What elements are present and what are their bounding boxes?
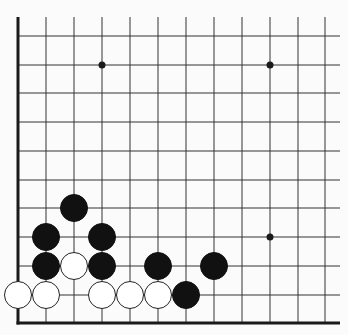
white-stone-icon [61,253,88,280]
black-stone-icon [145,253,172,280]
black-stone-icon [61,195,88,222]
white-stone-icon [33,282,60,309]
black-stone-icon [201,253,228,280]
black-stone-icon [89,253,116,280]
white-stone-icon [89,282,116,309]
black-stone-icon [89,224,116,251]
white-stone-icon [5,282,32,309]
white-stone-icon [117,282,144,309]
go-board [0,0,348,335]
star-point-icon [99,62,106,69]
black-stone-icon [173,282,200,309]
star-point-icon [267,62,274,69]
white-stone-icon [145,282,172,309]
board-grid [17,17,341,325]
star-point-icon [267,234,274,241]
black-stone-icon [33,253,60,280]
black-stone-icon [33,224,60,251]
stones [5,195,228,309]
